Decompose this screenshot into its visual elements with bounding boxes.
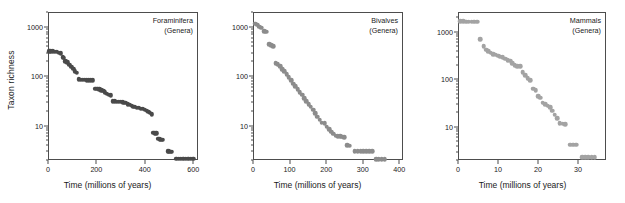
- data-point: [478, 37, 483, 42]
- y-minor-tick-mark: [251, 145, 254, 146]
- y-minor-tick-mark: [46, 151, 49, 152]
- x-tick-mark: [458, 160, 459, 164]
- y-minor-tick-mark: [251, 101, 254, 102]
- data-point: [533, 88, 538, 93]
- data-point: [370, 149, 375, 154]
- y-minor-tick-mark: [46, 127, 49, 128]
- panel-bivalves: Bivalves (Genera) 1010010000100200300400…: [215, 0, 420, 203]
- y-minor-tick-mark: [46, 101, 49, 102]
- x-tick-label: 300: [357, 165, 369, 174]
- y-minor-tick-mark: [251, 83, 254, 84]
- y-minor-tick-mark: [46, 133, 49, 134]
- y-minor-tick-mark: [46, 140, 49, 141]
- y-minor-tick-mark: [46, 83, 49, 84]
- y-minor-tick-mark: [251, 95, 254, 96]
- y-minor-tick-mark: [251, 87, 254, 88]
- x-tick-label: 20: [534, 165, 542, 174]
- y-minor-tick-mark: [456, 36, 459, 37]
- y-minor-tick-mark: [456, 93, 459, 94]
- y-minor-tick-mark: [456, 131, 459, 132]
- y-minor-tick-mark: [456, 98, 459, 99]
- y-minor-tick-mark: [251, 29, 254, 30]
- y-minor-tick-mark: [456, 83, 459, 84]
- y-minor-tick-mark: [251, 140, 254, 141]
- x-tick-mark: [96, 160, 97, 164]
- x-axis-label: Time (millions of years): [215, 180, 420, 190]
- y-minor-tick-mark: [456, 17, 459, 18]
- x-tick-label: 200: [320, 165, 332, 174]
- y-minor-tick-mark: [251, 34, 254, 35]
- x-tick-label: 10: [494, 165, 502, 174]
- plot-area-foraminifera: Foraminifera (Genera) 101001000020040060…: [48, 12, 198, 160]
- y-minor-tick-mark: [456, 42, 459, 43]
- y-minor-tick-mark: [46, 46, 49, 47]
- x-tick-mark: [48, 160, 49, 164]
- y-minor-tick-mark: [251, 151, 254, 152]
- y-minor-tick-mark: [46, 37, 49, 38]
- y-minor-tick-mark: [456, 46, 459, 47]
- axes-frame: [253, 12, 403, 160]
- y-minor-tick-mark: [251, 133, 254, 134]
- y-minor-tick-mark: [456, 64, 459, 65]
- y-minor-tick-mark: [46, 78, 49, 79]
- y-tick-label: 10: [240, 121, 253, 130]
- data-point: [538, 95, 543, 100]
- y-minor-tick-mark: [251, 41, 254, 42]
- y-minor-tick-mark: [456, 145, 459, 146]
- y-minor-tick-mark: [46, 110, 49, 111]
- y-minor-tick-mark: [46, 34, 49, 35]
- panel-foraminifera: Taxon richness Foraminifera (Genera) 101…: [0, 0, 215, 203]
- x-tick-label: 600: [187, 165, 199, 174]
- y-minor-tick-mark: [251, 31, 254, 32]
- y-minor-tick-mark: [251, 12, 254, 13]
- y-minor-tick-mark: [46, 87, 49, 88]
- y-minor-tick-mark: [456, 86, 459, 87]
- axes-frame: [48, 12, 198, 160]
- x-tick-mark: [253, 160, 254, 164]
- data-point: [518, 64, 523, 69]
- y-minor-tick-mark: [251, 130, 254, 131]
- y-minor-tick-mark: [456, 112, 459, 113]
- y-tick-label: 100: [31, 72, 48, 81]
- x-tick-label: 100: [284, 165, 296, 174]
- data-point: [382, 157, 387, 162]
- y-minor-tick-mark: [251, 78, 254, 79]
- data-point: [342, 135, 347, 140]
- y-minor-tick-mark: [46, 61, 49, 62]
- y-minor-tick-mark: [46, 12, 49, 13]
- y-tick-label: 10: [35, 121, 48, 130]
- y-minor-tick-mark: [46, 29, 49, 30]
- data-point: [593, 155, 598, 160]
- data-point: [574, 142, 579, 147]
- y-minor-tick-mark: [251, 110, 254, 111]
- x-tick-mark: [144, 160, 145, 164]
- y-minor-tick-mark: [456, 137, 459, 138]
- panel-mammals: Mammals (Genera) 1010010000102030 Time (…: [420, 0, 625, 203]
- x-tick-mark: [362, 160, 363, 164]
- x-tick-label: 0: [456, 165, 460, 174]
- x-tick-mark: [538, 160, 539, 164]
- y-axis-label: Taxon richness: [4, 0, 18, 160]
- y-minor-tick-mark: [251, 80, 254, 81]
- x-tick-mark: [498, 160, 499, 164]
- y-minor-tick-mark: [46, 136, 49, 137]
- data-point: [191, 157, 195, 161]
- data-point: [563, 122, 568, 127]
- data-point: [271, 44, 276, 49]
- x-tick-mark: [399, 160, 400, 164]
- y-minor-tick-mark: [456, 104, 459, 105]
- y-tick-label: 100: [236, 72, 253, 81]
- y-minor-tick-mark: [46, 31, 49, 32]
- data-point: [475, 19, 480, 24]
- y-minor-tick-mark: [251, 136, 254, 137]
- x-tick-label: 400: [393, 165, 405, 174]
- x-tick-label: 200: [90, 165, 102, 174]
- y-minor-tick-mark: [46, 95, 49, 96]
- x-tick-mark: [326, 160, 327, 164]
- y-minor-tick-mark: [456, 128, 459, 129]
- y-minor-tick-mark: [456, 134, 459, 135]
- y-minor-tick-mark: [456, 33, 459, 34]
- y-minor-tick-mark: [456, 56, 459, 57]
- data-point: [347, 143, 352, 148]
- y-minor-tick-mark: [46, 145, 49, 146]
